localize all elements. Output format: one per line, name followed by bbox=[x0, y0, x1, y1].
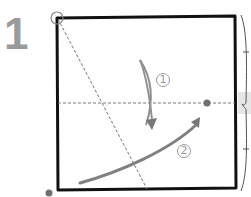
curved-fold-arrow-icon bbox=[140, 60, 157, 130]
fold-diagram bbox=[0, 0, 251, 197]
brace-highlight bbox=[238, 92, 251, 114]
dot-marker-icon bbox=[46, 190, 53, 197]
dot-marker-icon bbox=[204, 100, 211, 107]
fold-2-label: 2 bbox=[177, 144, 191, 158]
fold-1-label: 1 bbox=[156, 73, 170, 87]
